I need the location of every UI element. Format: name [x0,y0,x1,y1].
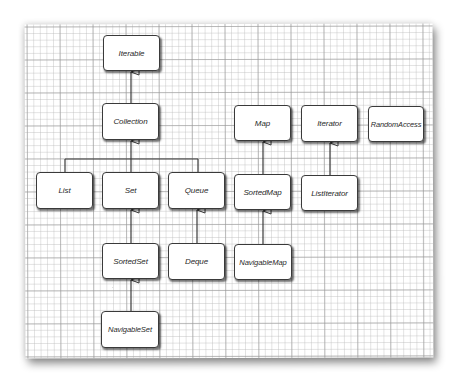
node-set: Set [102,172,159,209]
node-label: SortedSet [113,257,148,266]
node-map: Map [234,105,291,141]
node-label: List [58,186,70,195]
node-label: NavigableSet [108,325,152,334]
node-label: Queue [185,186,209,195]
node-sortedmap: SortedMap [234,174,291,210]
node-label: NavigableMap [239,258,286,267]
node-collection: Collection [102,103,159,140]
node-label: Iterator [317,119,342,128]
node-deque: Deque [168,243,225,280]
node-listiterator: ListIterator [301,175,358,211]
node-label: ListIterator [311,189,348,198]
node-label: Map [255,119,270,128]
node-sortedset: SortedSet [102,243,159,279]
node-iterator: Iterator [301,105,358,142]
node-navigableset: NavigableSet [101,311,159,348]
node-label: Iterable [119,49,145,58]
node-label: Collection [113,117,147,126]
node-iterable: Iterable [103,35,160,71]
node-navigablemap: NavigableMap [234,244,292,280]
node-label: SortedMap [243,188,281,197]
node-label: RandomAccess [371,120,422,129]
node-list: List [36,172,93,209]
node-randomaccess: RandomAccess [368,106,424,142]
node-queue: Queue [168,172,225,209]
node-label: Deque [185,257,208,266]
node-label: Set [125,186,137,195]
